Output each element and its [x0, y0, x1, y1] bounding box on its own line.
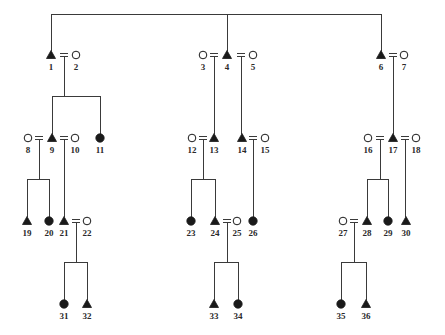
- male-affected-triangle-icon: [238, 134, 247, 142]
- individual-label-5: 5: [251, 62, 256, 72]
- individual-label-14: 14: [238, 145, 248, 155]
- male-affected-triangle-icon: [389, 134, 398, 142]
- female-affected-circle-icon: [45, 217, 53, 225]
- female-unaffected-circle-icon: [412, 134, 420, 142]
- female-affected-circle-icon: [384, 217, 392, 225]
- individual-label-8: 8: [26, 145, 31, 155]
- female-affected-circle-icon: [234, 300, 242, 308]
- female-unaffected-circle-icon: [71, 134, 79, 142]
- individual-label-23: 23: [187, 228, 197, 238]
- individual-label-32: 32: [83, 311, 93, 321]
- individual-label-36: 36: [362, 311, 372, 321]
- female-unaffected-circle-icon: [261, 134, 269, 142]
- individual-label-27: 27: [339, 228, 349, 238]
- female-unaffected-circle-icon: [83, 217, 91, 225]
- individual-label-2: 2: [74, 62, 79, 72]
- individual-label-22: 22: [83, 228, 93, 238]
- individual-label-33: 33: [210, 311, 220, 321]
- male-affected-triangle-icon: [210, 300, 219, 308]
- individual-label-24: 24: [211, 228, 221, 238]
- female-unaffected-circle-icon: [24, 134, 32, 142]
- individual-label-15: 15: [261, 145, 271, 155]
- female-unaffected-circle-icon: [199, 51, 207, 59]
- male-affected-triangle-icon: [377, 51, 386, 59]
- female-unaffected-circle-icon: [72, 51, 80, 59]
- female-affected-circle-icon: [187, 217, 195, 225]
- female-unaffected-circle-icon: [233, 217, 241, 225]
- male-affected-triangle-icon: [83, 300, 92, 308]
- female-affected-circle-icon: [337, 300, 345, 308]
- individual-label-35: 35: [337, 311, 347, 321]
- female-unaffected-circle-icon: [400, 51, 408, 59]
- male-affected-triangle-icon: [211, 217, 220, 225]
- male-affected-triangle-icon: [60, 217, 69, 225]
- individual-label-19: 19: [23, 228, 33, 238]
- female-unaffected-circle-icon: [249, 51, 257, 59]
- male-affected-triangle-icon: [47, 51, 56, 59]
- male-affected-triangle-icon: [210, 134, 219, 142]
- male-affected-triangle-icon: [48, 134, 57, 142]
- female-affected-circle-icon: [60, 300, 68, 308]
- female-unaffected-circle-icon: [364, 134, 372, 142]
- individual-label-16: 16: [364, 145, 374, 155]
- individual-label-20: 20: [45, 228, 55, 238]
- pedigree-lines: [27, 14, 409, 300]
- male-affected-triangle-icon: [362, 300, 371, 308]
- pedigree-chart: 1234567891011121314151617181920212223242…: [0, 0, 445, 335]
- female-unaffected-circle-icon: [188, 134, 196, 142]
- male-affected-triangle-icon: [23, 217, 32, 225]
- individual-label-7: 7: [402, 62, 407, 72]
- individual-label-11: 11: [96, 145, 105, 155]
- individual-label-4: 4: [225, 62, 230, 72]
- individual-label-3: 3: [201, 62, 206, 72]
- pedigree-symbols: [23, 51, 420, 309]
- female-affected-circle-icon: [96, 134, 104, 142]
- male-affected-triangle-icon: [223, 51, 232, 59]
- individual-label-29: 29: [384, 228, 394, 238]
- female-affected-circle-icon: [249, 217, 257, 225]
- individual-label-31: 31: [60, 311, 70, 321]
- individual-label-18: 18: [412, 145, 422, 155]
- pedigree-labels: 1234567891011121314151617181920212223242…: [23, 62, 422, 321]
- individual-label-30: 30: [402, 228, 412, 238]
- individual-label-34: 34: [234, 311, 244, 321]
- individual-label-26: 26: [249, 228, 259, 238]
- individual-label-6: 6: [379, 62, 384, 72]
- male-affected-triangle-icon: [363, 217, 372, 225]
- individual-label-17: 17: [389, 145, 399, 155]
- individual-label-25: 25: [233, 228, 243, 238]
- individual-label-12: 12: [188, 145, 198, 155]
- individual-label-9: 9: [50, 145, 55, 155]
- individual-label-13: 13: [210, 145, 220, 155]
- individual-label-1: 1: [49, 62, 54, 72]
- individual-label-10: 10: [71, 145, 81, 155]
- individual-label-28: 28: [363, 228, 373, 238]
- individual-label-21: 21: [60, 228, 70, 238]
- male-affected-triangle-icon: [402, 217, 411, 225]
- female-unaffected-circle-icon: [339, 217, 347, 225]
